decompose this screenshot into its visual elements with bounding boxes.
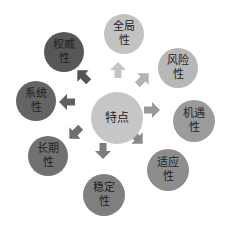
arrow-to-quanju-icon bbox=[109, 61, 127, 79]
node-label-line1: 机遇 bbox=[183, 107, 205, 121]
node-jiyu: 机遇 性 bbox=[173, 100, 215, 142]
arrow-to-xitong-icon bbox=[58, 93, 76, 111]
node-label-line2: 性 bbox=[119, 34, 130, 48]
node-fengxian: 风险 性 bbox=[158, 48, 198, 88]
center-node-characteristics: 特点 bbox=[91, 92, 143, 144]
node-label-line1: 稳定 bbox=[93, 181, 115, 195]
node-xitong: 系统 性 bbox=[16, 81, 56, 121]
center-node-label: 特点 bbox=[105, 111, 129, 126]
node-label-line2: 性 bbox=[173, 68, 184, 82]
node-label-line2: 性 bbox=[189, 121, 200, 135]
node-wending: 稳定 性 bbox=[83, 174, 125, 216]
node-label-line2: 性 bbox=[59, 52, 70, 66]
arrow-to-changqi-icon bbox=[62, 120, 87, 145]
arrow-to-wending-icon bbox=[94, 142, 112, 160]
node-label-line1: 权威 bbox=[53, 38, 75, 52]
node-changqi: 长期 性 bbox=[28, 136, 68, 176]
node-label-line2: 性 bbox=[99, 195, 110, 209]
node-label-line2: 性 bbox=[163, 170, 174, 184]
node-label-line1: 系统 bbox=[25, 87, 47, 101]
node-label-line1: 风险 bbox=[167, 54, 189, 68]
arrow-to-jiyu-icon bbox=[143, 101, 161, 119]
node-label-line1: 全局 bbox=[113, 20, 135, 34]
node-quanju: 全局 性 bbox=[104, 14, 144, 54]
node-label-line1: 长期 bbox=[37, 142, 59, 156]
node-label-line2: 性 bbox=[31, 101, 42, 115]
node-quanwei: 权威 性 bbox=[44, 32, 84, 72]
node-label-line1: 适应 bbox=[157, 156, 179, 170]
node-label-line2: 性 bbox=[43, 156, 54, 170]
node-shiying: 适应 性 bbox=[147, 149, 189, 191]
arrow-to-fengxian-icon bbox=[130, 66, 155, 91]
characteristics-radial-diagram: 特点 全局 性 风险 性 机遇 性 适应 性 稳定 性 长期 性 系统 性 权威… bbox=[0, 0, 230, 226]
